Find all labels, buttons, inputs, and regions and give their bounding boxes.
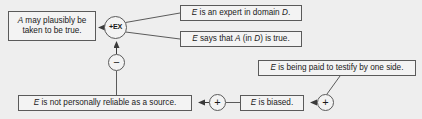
node-conclusion-label: A may plausibly be taken to be true. bbox=[13, 16, 91, 37]
node-expert-premise[interactable]: E is an expert in domain D. bbox=[180, 5, 302, 21]
node-biased-label: E is biased. bbox=[251, 98, 293, 109]
node-unreliable-premise[interactable]: E is not personally reliable as a source… bbox=[18, 95, 192, 111]
node-says-label: E says that A (in D) is true. bbox=[192, 34, 289, 45]
operator-node-plus-left[interactable]: + bbox=[209, 94, 226, 111]
plus-ex-icon: +EX bbox=[109, 23, 122, 30]
node-paid-premise[interactable]: E is being paid to testify by one side. bbox=[258, 60, 416, 76]
operator-node-minus[interactable]: − bbox=[108, 54, 125, 71]
edge-paid-to-plus-right bbox=[327, 76, 340, 94]
node-conclusion[interactable]: A may plausibly be taken to be true. bbox=[8, 11, 96, 41]
edge-says-to-ex bbox=[126, 32, 181, 39]
argument-diagram: A may plausibly be taken to be true. E i… bbox=[0, 0, 422, 119]
operator-node-plus-right[interactable]: + bbox=[317, 94, 334, 111]
node-paid-label: E is being paid to testify by one side. bbox=[271, 63, 404, 74]
node-expert-label: E is an expert in domain D. bbox=[192, 8, 290, 19]
edge-expert-to-ex bbox=[126, 13, 181, 23]
node-says-premise[interactable]: E says that A (in D) is true. bbox=[180, 31, 302, 47]
minus-icon: − bbox=[113, 57, 119, 68]
plus-icon: + bbox=[214, 97, 220, 108]
operator-node-plus-ex[interactable]: +EX bbox=[104, 16, 127, 39]
plus-icon: + bbox=[322, 97, 328, 108]
node-unreliable-label: E is not personally reliable as a source… bbox=[34, 98, 176, 109]
node-biased-premise[interactable]: E is biased. bbox=[240, 95, 304, 111]
